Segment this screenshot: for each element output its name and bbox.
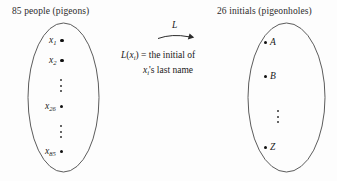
left-element-85: x85 <box>45 147 63 157</box>
left-element-1: x1 <box>49 36 64 46</box>
left-element-1-dot <box>60 39 63 42</box>
definition-line2-tail: 's last name <box>149 65 193 75</box>
definition-line1-tail: = the initial of <box>139 50 196 60</box>
left-element-85-subscript: 85 <box>49 150 56 157</box>
left-set-caption: 85 people (pigeons) <box>12 6 89 16</box>
left-element-85-dot <box>60 150 63 153</box>
right-element-b-label: B <box>270 71 276 81</box>
left-ellipsis-lower <box>60 122 62 138</box>
left-element-26: x26 <box>45 102 63 112</box>
right-set-ellipse <box>248 23 325 172</box>
left-element-26-dot <box>60 105 63 108</box>
left-element-26-subscript: 26 <box>49 105 56 112</box>
right-element-b-dot <box>264 75 267 78</box>
right-element-b: B <box>264 72 276 82</box>
right-element-z: Z <box>264 143 275 153</box>
right-element-z-label: Z <box>270 142 275 152</box>
right-element-a-label: A <box>270 37 276 47</box>
left-element-2-subscript: 2 <box>53 59 56 66</box>
left-element-1-subscript: 1 <box>53 39 56 46</box>
left-ellipsis-upper <box>60 76 62 92</box>
right-element-a-dot <box>264 41 267 44</box>
right-element-z-dot <box>264 146 267 149</box>
mapping-definition: L(xi) = the initial of xi's last name <box>121 49 195 80</box>
right-ellipsis <box>277 107 279 123</box>
mapping-arrow-label: L <box>172 20 177 30</box>
left-element-2-dot <box>60 59 63 62</box>
right-set-caption: 26 initials (pigeonholes) <box>217 6 312 16</box>
pigeonhole-diagram: 85 people (pigeons) 26 initials (pigeonh… <box>0 0 337 181</box>
mapping-arrow <box>158 33 194 39</box>
left-element-2: x2 <box>49 56 64 66</box>
right-element-a: A <box>264 38 276 48</box>
